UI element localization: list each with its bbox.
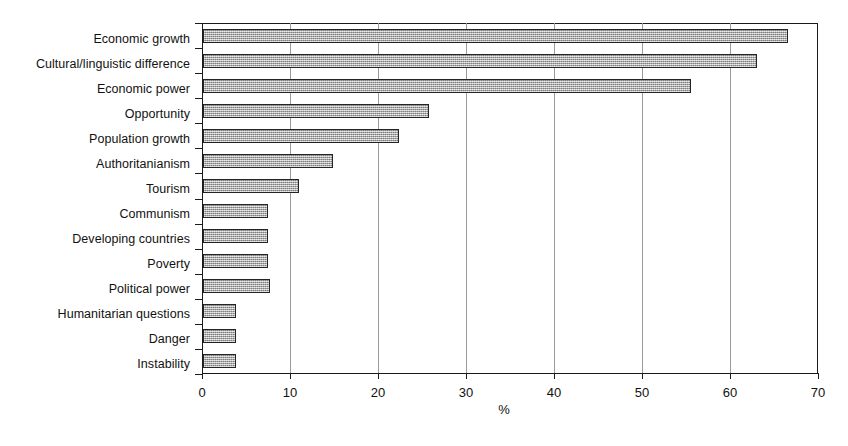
gridline-20 xyxy=(378,23,379,374)
bar xyxy=(203,229,268,243)
y-tick xyxy=(195,173,202,174)
y-tick xyxy=(195,299,202,300)
y-tick xyxy=(195,123,202,124)
category-label: Economic growth xyxy=(0,32,190,46)
y-tick xyxy=(195,23,202,24)
plot-frame-top xyxy=(202,23,818,24)
x-tick-label-0: 0 xyxy=(182,385,222,400)
bar xyxy=(203,354,236,368)
bar xyxy=(203,204,268,218)
y-tick xyxy=(195,374,202,375)
y-tick xyxy=(195,148,202,149)
bar xyxy=(203,329,236,343)
y-tick xyxy=(195,224,202,225)
plot-frame-right xyxy=(817,23,818,374)
bar xyxy=(203,254,268,268)
y-tick xyxy=(195,98,202,99)
y-axis-line xyxy=(202,23,203,374)
x-axis-title-text: % xyxy=(498,402,510,417)
y-tick xyxy=(195,199,202,200)
x-axis-title: % xyxy=(0,402,848,417)
x-tick-60 xyxy=(730,373,731,379)
category-label: Cultural/linguistic difference xyxy=(0,57,190,71)
category-label: Humanitarian questions xyxy=(0,307,190,321)
bar xyxy=(203,54,757,68)
category-label: Economic power xyxy=(0,82,190,96)
x-tick-20 xyxy=(378,373,379,379)
y-tick xyxy=(195,48,202,49)
x-tick-label-70: 70 xyxy=(798,385,838,400)
y-tick xyxy=(195,73,202,74)
bar xyxy=(203,304,236,318)
x-tick-label-30: 30 xyxy=(446,385,486,400)
bar xyxy=(203,129,399,143)
x-tick-50 xyxy=(642,373,643,379)
x-tick-10 xyxy=(290,373,291,379)
plot-area: 010203040506070 xyxy=(202,23,818,374)
category-label: Population growth xyxy=(0,132,190,146)
bar xyxy=(203,279,270,293)
category-label: Authoritanianism xyxy=(0,157,190,171)
bar xyxy=(203,179,299,193)
y-tick xyxy=(195,274,202,275)
category-label: Danger xyxy=(0,332,190,346)
category-label: Communism xyxy=(0,207,190,221)
gridline-40 xyxy=(554,23,555,374)
y-tick xyxy=(195,249,202,250)
bar xyxy=(203,104,429,118)
gridline-50 xyxy=(642,23,643,374)
gridline-30 xyxy=(466,23,467,374)
x-tick-label-50: 50 xyxy=(622,385,662,400)
bar-chart: Economic growthCultural/linguistic diffe… xyxy=(0,0,848,446)
category-label: Poverty xyxy=(0,257,190,271)
gridline-60 xyxy=(730,23,731,374)
bar xyxy=(203,79,691,93)
x-tick-label-10: 10 xyxy=(270,385,310,400)
y-tick xyxy=(195,324,202,325)
x-tick-30 xyxy=(466,373,467,379)
category-label: Developing countries xyxy=(0,232,190,246)
x-tick-40 xyxy=(554,373,555,379)
x-tick-70 xyxy=(818,373,819,379)
x-tick-label-60: 60 xyxy=(710,385,750,400)
x-tick-0 xyxy=(202,373,203,379)
category-label: Instability xyxy=(0,357,190,371)
gridline-10 xyxy=(290,23,291,374)
category-label: Political power xyxy=(0,282,190,296)
bar xyxy=(203,154,333,168)
y-tick xyxy=(195,349,202,350)
x-axis-line xyxy=(202,373,818,374)
category-axis-labels: Economic growthCultural/linguistic diffe… xyxy=(0,25,196,375)
bar xyxy=(203,29,788,43)
x-tick-label-40: 40 xyxy=(534,385,574,400)
category-label: Opportunity xyxy=(0,107,190,121)
x-tick-label-20: 20 xyxy=(358,385,398,400)
category-label: Tourism xyxy=(0,182,190,196)
